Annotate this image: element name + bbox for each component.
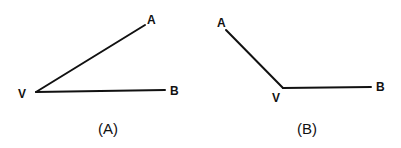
- ray-va-panel-a: [36, 25, 145, 92]
- vertex-label-panel-a: V: [18, 87, 26, 101]
- ray-vb-panel-a: [36, 90, 165, 92]
- point-a-label-panel-b: A: [217, 16, 226, 30]
- angle-diagram: V A B (A) A V B (B): [0, 0, 401, 148]
- ray-va-panel-b: [226, 30, 283, 88]
- point-a-label-panel-a: A: [147, 13, 156, 27]
- vertex-label-panel-b: V: [272, 91, 280, 105]
- panel-a: V A B (A): [18, 13, 179, 137]
- caption-panel-b: (B): [297, 120, 317, 137]
- ray-vb-panel-b: [283, 87, 371, 88]
- panel-b: A V B (B): [217, 16, 385, 137]
- point-b-label-panel-a: B: [170, 84, 179, 98]
- caption-panel-a: (A): [98, 120, 118, 137]
- point-b-label-panel-b: B: [376, 80, 385, 94]
